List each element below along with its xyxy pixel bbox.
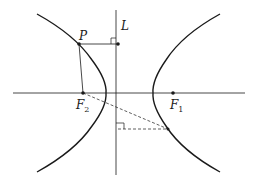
- point-Q: [167, 128, 170, 131]
- point-L-foot: [116, 42, 120, 46]
- label-F1: F1: [169, 98, 183, 114]
- point-F2: [81, 91, 85, 95]
- label-F2: F2: [75, 98, 89, 114]
- label-L: L: [120, 19, 129, 33]
- segment-P-to-F2: [79, 44, 83, 93]
- point-F1: [171, 91, 175, 95]
- right-angle-mark-P: [111, 38, 116, 44]
- right-angle-mark-Q: [116, 123, 124, 129]
- label-P: P: [78, 29, 88, 43]
- hyperbola-diagram: P L F2 F1: [0, 0, 257, 181]
- dashed-segment-F2-to-Q: [83, 93, 168, 129]
